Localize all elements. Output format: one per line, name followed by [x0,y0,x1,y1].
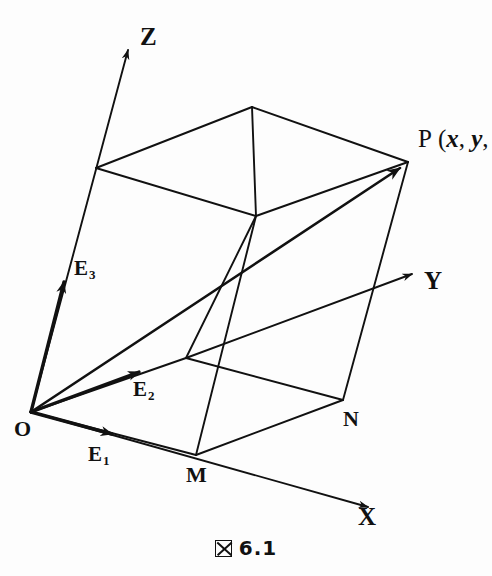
vector-label-e3-sub: 3 [89,267,96,282]
vertex-label-n: N [343,408,359,430]
point-label-p-coord-y: y [471,125,482,152]
point-label-p: P(x, y, [418,126,489,151]
figure-caption-number: 6.1 [239,536,277,560]
box-x-glyph-icon [215,540,232,557]
vector-label-e1-base: E [88,442,102,466]
axis-label-z: Z [140,24,157,49]
axis-label-x: X [358,504,377,529]
point-label-p-coord-x: x [446,125,459,152]
edge-K-N [186,358,343,400]
vector-label-e3: E3 [74,258,95,279]
figure-container: Z Y X O M N E1 E2 E3 P(x, y, 6.1 [0,0,492,576]
edge-A-C [96,168,256,216]
point-label-p-name: P [418,125,432,152]
point-label-p-comma-2: , [482,125,488,152]
edge-B-P [252,107,408,162]
vertex-label-o: O [14,418,31,440]
edge-A-B [96,107,252,168]
vector-label-e2-sub: 2 [148,388,155,403]
vector-label-e1-sub: 1 [103,453,110,468]
vector-label-e1: E1 [88,444,109,465]
point-label-p-comma-1: , [459,125,472,152]
basis-vector-arrows [31,282,139,434]
parallelepiped-diagram [0,0,492,576]
vector-label-e3-base: E [74,256,88,280]
edge-M-N [196,400,343,455]
point-label-p-paren: ( [438,125,446,152]
vector-label-e2: E2 [133,379,154,400]
vertex-label-m: M [186,464,207,486]
parallelepiped-edges [31,107,408,455]
vector-e2 [31,372,139,412]
vector-e1 [31,412,112,434]
edge-C-P [256,162,408,216]
axis-label-y: Y [424,268,443,293]
vector-label-e2-base: E [133,377,147,401]
edge-B-C [252,107,256,216]
figure-caption: 6.1 [0,536,492,560]
